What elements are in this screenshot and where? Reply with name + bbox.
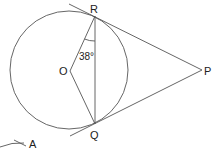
radius-or bbox=[70, 16, 95, 71]
tangent-line-q bbox=[70, 70, 202, 136]
circle bbox=[10, 11, 128, 129]
label-a: A bbox=[29, 138, 37, 150]
angle-label: 38° bbox=[79, 51, 94, 62]
label-o: O bbox=[59, 65, 68, 77]
label-q: Q bbox=[90, 129, 99, 141]
label-r: R bbox=[90, 3, 98, 15]
radius-oq bbox=[70, 71, 95, 124]
geometry-diagram: R Q O P A 38° bbox=[0, 0, 219, 151]
angle-arc bbox=[85, 39, 96, 41]
label-p: P bbox=[204, 65, 211, 77]
